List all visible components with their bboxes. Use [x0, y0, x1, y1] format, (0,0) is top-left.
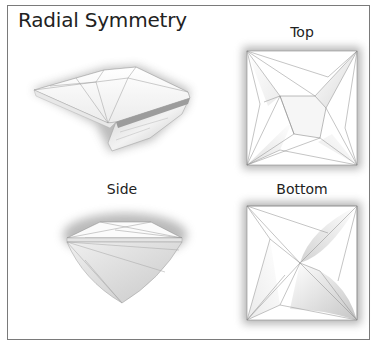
side-view-gem — [55, 200, 195, 310]
top-view-gem — [240, 44, 364, 172]
bottom-view-gem — [240, 199, 364, 327]
